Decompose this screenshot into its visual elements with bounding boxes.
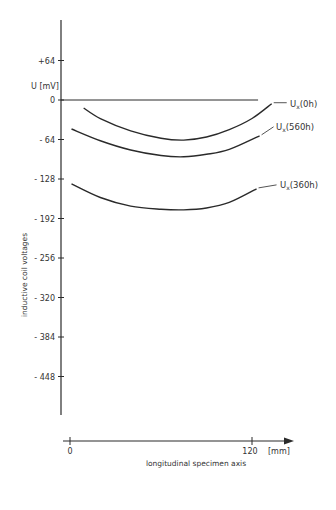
y-axis-title: inductive coil voltages (20, 233, 29, 317)
y-tick-label: - 128 (34, 175, 55, 184)
series-label: Ux(0h) (290, 99, 317, 110)
y-axis: +640- 64- 128- 192- 256- 320- 384- 448 (34, 20, 258, 415)
x-axis-arrow-icon (284, 438, 294, 445)
series-label: Ux(360h) (280, 180, 318, 191)
y-tick-label: - 256 (34, 254, 55, 263)
y-tick-label: - 64 (39, 136, 55, 145)
series-curve-ux-560h- (72, 129, 260, 157)
x-tick-label: 0 (67, 447, 72, 456)
x-axis: 0120 (63, 437, 294, 456)
y-tick-label: - 384 (34, 333, 55, 342)
y-unit-label: U [mV] (31, 82, 59, 91)
y-tick-label: - 320 (34, 294, 55, 303)
series-curve-ux-360h- (72, 184, 257, 210)
x-axis-title: longitudinal specimen axis (146, 459, 246, 468)
chart-figure: +640- 64- 128- 192- 256- 320- 384- 448 0… (0, 0, 336, 510)
plot-curves: Ux(0h)Ux(560h)Ux(360h) (72, 99, 319, 210)
y-tick-label: +64 (38, 57, 55, 66)
y-tick-label: - 192 (34, 215, 55, 224)
x-tick-label: 120 (242, 447, 257, 456)
y-tick-label: 0 (50, 96, 55, 105)
series-label: Ux(560h) (276, 122, 314, 133)
x-unit-label: [mm] (268, 447, 290, 456)
y-tick-label: - 448 (34, 373, 55, 382)
series-curve-ux-0h- (84, 104, 272, 140)
